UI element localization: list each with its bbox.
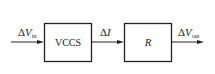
input-arrow xyxy=(11,40,44,44)
current-signal-label: ΔI xyxy=(100,26,112,38)
input-signal-label: ΔVin xyxy=(18,26,36,39)
block-diagram: ΔVin VCCS ΔI R ΔVout xyxy=(0,0,215,74)
resistor-label: R xyxy=(144,36,152,48)
middle-arrow xyxy=(92,40,125,44)
output-arrow xyxy=(172,40,205,44)
output-signal-label: ΔVout xyxy=(178,26,200,39)
vccs-label: VCCS xyxy=(55,37,81,48)
